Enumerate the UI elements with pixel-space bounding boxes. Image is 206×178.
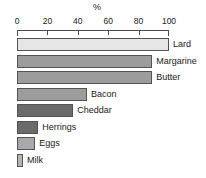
x-axis-tick-mark bbox=[17, 30, 18, 36]
x-axis-tick-mark bbox=[168, 30, 169, 36]
bar bbox=[17, 137, 35, 150]
chart-title: % bbox=[0, 2, 206, 12]
x-axis-tick-label: 80 bbox=[134, 16, 143, 26]
bar-row: Eggs bbox=[17, 137, 60, 150]
x-axis-tick-labels: 020406080100 bbox=[0, 16, 206, 28]
bar-chart: % 020406080100 LardMargarineButterBaconC… bbox=[0, 0, 206, 178]
x-axis-tick-label: 20 bbox=[43, 16, 52, 26]
bar-label: Cheddar bbox=[77, 105, 112, 116]
x-axis-tick-label: 40 bbox=[73, 16, 82, 26]
x-axis-tick-label: 100 bbox=[162, 16, 176, 26]
bar-label: Eggs bbox=[39, 138, 60, 149]
bar bbox=[17, 71, 152, 84]
x-axis-tick-label: 0 bbox=[15, 16, 20, 26]
bar-label: Milk bbox=[27, 155, 43, 166]
plot-area: LardMargarineButterBaconCheddarHerringsE… bbox=[17, 38, 206, 178]
x-axis-tick-mark bbox=[108, 30, 109, 35]
bar-label: Margarine bbox=[156, 56, 197, 67]
bar-row: Butter bbox=[17, 71, 180, 84]
bar bbox=[17, 104, 73, 117]
bar-row: Milk bbox=[17, 154, 43, 167]
bar-label: Butter bbox=[156, 72, 180, 83]
x-axis-line bbox=[17, 30, 169, 31]
bar bbox=[17, 38, 169, 51]
bar-row: Margarine bbox=[17, 55, 197, 68]
chart-title-text: % bbox=[93, 2, 101, 12]
bar-row: Cheddar bbox=[17, 104, 112, 117]
bar bbox=[17, 154, 23, 167]
x-axis-tick-label: 60 bbox=[103, 16, 112, 26]
bar bbox=[17, 88, 87, 101]
x-axis-tick-mark bbox=[139, 30, 140, 35]
x-axis-tick-mark bbox=[78, 30, 79, 35]
bar-label: Lard bbox=[173, 39, 191, 50]
bar-row: Lard bbox=[17, 38, 191, 51]
x-axis-tick-mark bbox=[47, 30, 48, 35]
bar bbox=[17, 121, 38, 134]
bar-label: Bacon bbox=[91, 89, 117, 100]
bar bbox=[17, 55, 152, 68]
bar-label: Herrings bbox=[42, 122, 76, 133]
bar-row: Herrings bbox=[17, 121, 76, 134]
bar-row: Bacon bbox=[17, 88, 116, 101]
